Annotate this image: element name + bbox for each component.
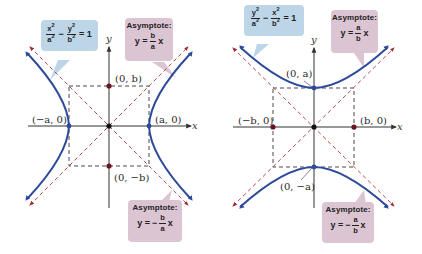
- left-point-right-vertex: [147, 124, 152, 129]
- right-point-origin: [311, 124, 316, 129]
- right-eq-term1: y2 a2: [251, 9, 260, 27]
- left-point-bottom: [106, 163, 111, 168]
- right-label-left-point: (−b, 0): [238, 116, 273, 126]
- left-graph: [26, 47, 192, 208]
- left-asymptote-upper-callout: Asymptote: y = ba x: [125, 18, 173, 61]
- left-label-left-vertex: (−a, 0): [32, 115, 67, 125]
- right-equation-callout-pointer: [253, 44, 269, 58]
- left-point-left-vertex: [67, 124, 72, 129]
- right-point-bottom-vertex: [312, 165, 317, 170]
- left-label-bottom-point: (0, −b): [114, 173, 149, 183]
- left-equation-callout: x2 a2 − y2 b2 = 1: [41, 20, 98, 51]
- right-eq-term2: x2 b2: [271, 9, 280, 27]
- right-equation-callout: y2 a2 − x2 b2 = 1: [244, 5, 304, 36]
- left-y-axis-label: y: [106, 34, 112, 44]
- right-bottom-label-leader: [301, 168, 312, 180]
- left-asymptote-lower-callout: Asymptote: y = − ba x: [128, 200, 182, 242]
- left-point-origin: [106, 123, 111, 128]
- right-top-label-leader: [304, 81, 312, 87]
- right-point-right: [351, 124, 356, 129]
- left-label-top-point: (0, b): [115, 74, 142, 84]
- left-eq-term2: y2 b2: [67, 25, 76, 43]
- right-point-top-vertex: [312, 86, 317, 91]
- left-point-top: [106, 83, 111, 88]
- right-y-axis-label: y: [311, 35, 317, 45]
- right-x-axis-label: x: [397, 122, 403, 132]
- left-label-right-vertex: (a, 0): [155, 115, 181, 125]
- left-eq-term1: x2 a2: [46, 25, 55, 43]
- right-label-bottom-vertex: (0, −a): [280, 182, 315, 192]
- right-label-top-vertex: (0, a): [286, 69, 312, 79]
- right-asymptote-upper-callout: Asymptote: y = ab x: [331, 10, 378, 53]
- hyperbola-figure: x y (0, b) (0, −b) (−a, 0) (a, 0) x2 a2 …: [0, 0, 422, 254]
- left-x-axis-label: x: [192, 121, 198, 131]
- right-asymptote-lower-callout: Asymptote: y = − ab x: [322, 202, 374, 243]
- right-label-right-point: (b, 0): [360, 116, 387, 126]
